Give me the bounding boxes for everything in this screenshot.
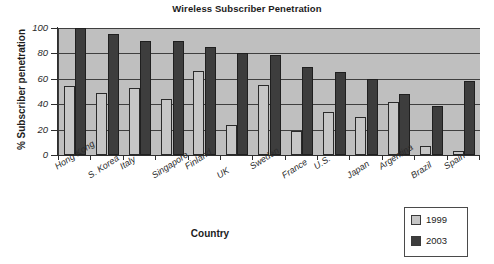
x-category-label-france: France [280, 157, 309, 181]
y-axis-title: % Subscriber penetration [16, 15, 27, 165]
bar-u-s-1999 [323, 112, 334, 155]
bar-japan-2003 [367, 79, 378, 155]
x-tick-mark-3 [155, 155, 156, 160]
y-tick-label-60: 60 [18, 73, 48, 84]
y-tick-mark-40 [51, 104, 57, 105]
y-tick-label-0: 0 [18, 149, 48, 160]
legend-item-1999: 1999 [411, 214, 447, 225]
x-category-label-u-s: U.S. [312, 153, 332, 171]
bar-italy-2003 [140, 41, 151, 155]
bar-singapore-1999 [161, 99, 172, 155]
gridline-100 [59, 28, 480, 29]
x-category-label-japan: Japan [345, 159, 371, 181]
bar-italy-1999 [129, 88, 140, 155]
y-tick-mark-20 [51, 130, 57, 131]
bar-spain-2003 [464, 81, 475, 155]
x-tick-mark-9 [349, 155, 350, 160]
y-tick-mark-100 [51, 28, 57, 29]
bar-france-2003 [302, 67, 313, 155]
bar-uk-1999 [226, 125, 237, 155]
legend-item-2003: 2003 [411, 235, 447, 246]
bar-u-s-2003 [335, 72, 346, 155]
chart-legend: 1999 2003 [404, 207, 468, 257]
bar-sweden-1999 [258, 85, 269, 155]
bar-finland-1999 [193, 71, 204, 155]
y-tick-mark-60 [51, 79, 57, 80]
bar-brazil-2003 [432, 106, 443, 155]
bar-s-korea-2003 [108, 34, 119, 155]
bar-france-1999 [291, 131, 302, 155]
y-tick-label-20: 20 [18, 124, 48, 135]
x-tick-mark-5 [220, 155, 221, 160]
legend-label-1999: 1999 [426, 214, 447, 225]
x-category-label-italy: Italy [118, 154, 137, 171]
bar-japan-1999 [355, 117, 366, 155]
y-tick-label-100: 100 [18, 22, 48, 33]
wireless-subscriber-penetration-chart: Wireless Subscriber Penetration % Subscr… [0, 0, 494, 264]
y-tick-mark-80 [51, 53, 57, 54]
x-tick-mark-7 [285, 155, 286, 160]
x-tick-mark-1 [90, 155, 91, 160]
y-tick-label-80: 80 [18, 47, 48, 58]
x-category-label-brazil: Brazil [409, 160, 433, 181]
bar-hong-kong-1999 [64, 86, 75, 155]
bar-s-korea-1999 [96, 93, 107, 155]
y-tick-mark-0 [51, 155, 57, 156]
x-tick-mark-13 [479, 155, 480, 160]
chart-title: Wireless Subscriber Penetration [0, 3, 494, 14]
bar-hong-kong-2003 [75, 28, 86, 155]
legend-swatch-1999 [411, 215, 421, 225]
bar-brazil-1999 [420, 146, 431, 155]
legend-swatch-2003 [411, 236, 421, 246]
plot-area [58, 28, 480, 155]
bar-argentina-1999 [388, 102, 399, 155]
x-category-label-uk: UK [215, 165, 231, 180]
x-tick-mark-11 [414, 155, 415, 160]
legend-label-2003: 2003 [426, 235, 447, 246]
bar-sweden-2003 [270, 55, 281, 155]
y-tick-label-40: 40 [18, 98, 48, 109]
bar-finland-2003 [205, 47, 216, 155]
x-axis-title: Country [140, 228, 280, 239]
y-axis-line [57, 27, 58, 156]
bar-uk-2003 [237, 53, 248, 155]
bar-singapore-2003 [173, 41, 184, 155]
